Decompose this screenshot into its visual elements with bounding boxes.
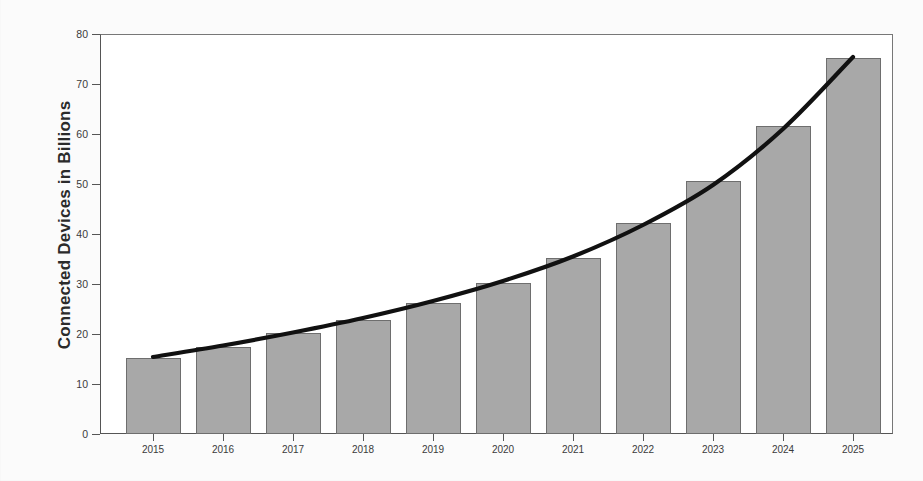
x-axis-tick-label: 2020: [473, 444, 533, 455]
x-axis-tick: [223, 434, 224, 441]
bar: [826, 58, 881, 434]
x-axis-tick-label: 2016: [193, 444, 253, 455]
bar: [476, 283, 531, 434]
bar: [546, 258, 601, 435]
y-axis-tick-label: 30: [52, 278, 88, 290]
x-axis-tick-label: 2021: [543, 444, 603, 455]
x-axis-tick: [713, 434, 714, 441]
x-axis-tick-label: 2022: [613, 444, 673, 455]
x-axis-tick-label: 2015: [123, 444, 183, 455]
y-axis-tick: [92, 34, 100, 35]
x-axis-tick: [363, 434, 364, 441]
x-axis-tick-label: 2023: [683, 444, 743, 455]
figure-background: Connected Devices in Billions 0102030405…: [0, 0, 923, 481]
x-axis-tick-label: 2018: [333, 444, 393, 455]
bar: [616, 223, 671, 435]
bar: [126, 358, 181, 434]
x-axis-tick-label: 2019: [403, 444, 463, 455]
y-axis-tick: [92, 434, 100, 435]
y-axis-tick-label: 80: [52, 28, 88, 40]
y-axis-tick-label: 20: [52, 328, 88, 340]
bar: [756, 126, 811, 435]
y-axis-tick: [92, 134, 100, 135]
y-axis-tick: [92, 384, 100, 385]
x-axis-tick: [503, 434, 504, 441]
y-axis-tick-label: 0: [52, 428, 88, 440]
y-axis-tick-label: 40: [52, 228, 88, 240]
bar: [266, 333, 321, 434]
x-axis-tick: [293, 434, 294, 441]
bar-chart-figure: Connected Devices in Billions 0102030405…: [0, 0, 923, 481]
x-axis-tick: [153, 434, 154, 441]
bar: [406, 303, 461, 435]
y-axis-tick: [92, 184, 100, 185]
bar: [336, 320, 391, 434]
y-axis-tick: [92, 284, 100, 285]
bar: [196, 347, 251, 435]
y-axis-tick-label: 50: [52, 178, 88, 190]
bar-series: [100, 34, 893, 434]
x-axis-tick: [643, 434, 644, 441]
x-axis-tick-label: 2025: [823, 444, 883, 455]
x-axis-tick-label: 2017: [263, 444, 323, 455]
y-axis-tick: [92, 234, 100, 235]
y-axis-tick-label: 10: [52, 378, 88, 390]
x-axis-tick: [853, 434, 854, 441]
x-axis-tick: [573, 434, 574, 441]
y-axis-tick-label: 60: [52, 128, 88, 140]
x-axis-tick: [433, 434, 434, 441]
y-axis-tick: [92, 84, 100, 85]
y-axis-tick-label: 70: [52, 78, 88, 90]
x-axis-tick-label: 2024: [753, 444, 813, 455]
bar: [686, 181, 741, 435]
x-axis-tick: [783, 434, 784, 441]
y-axis-tick: [92, 334, 100, 335]
